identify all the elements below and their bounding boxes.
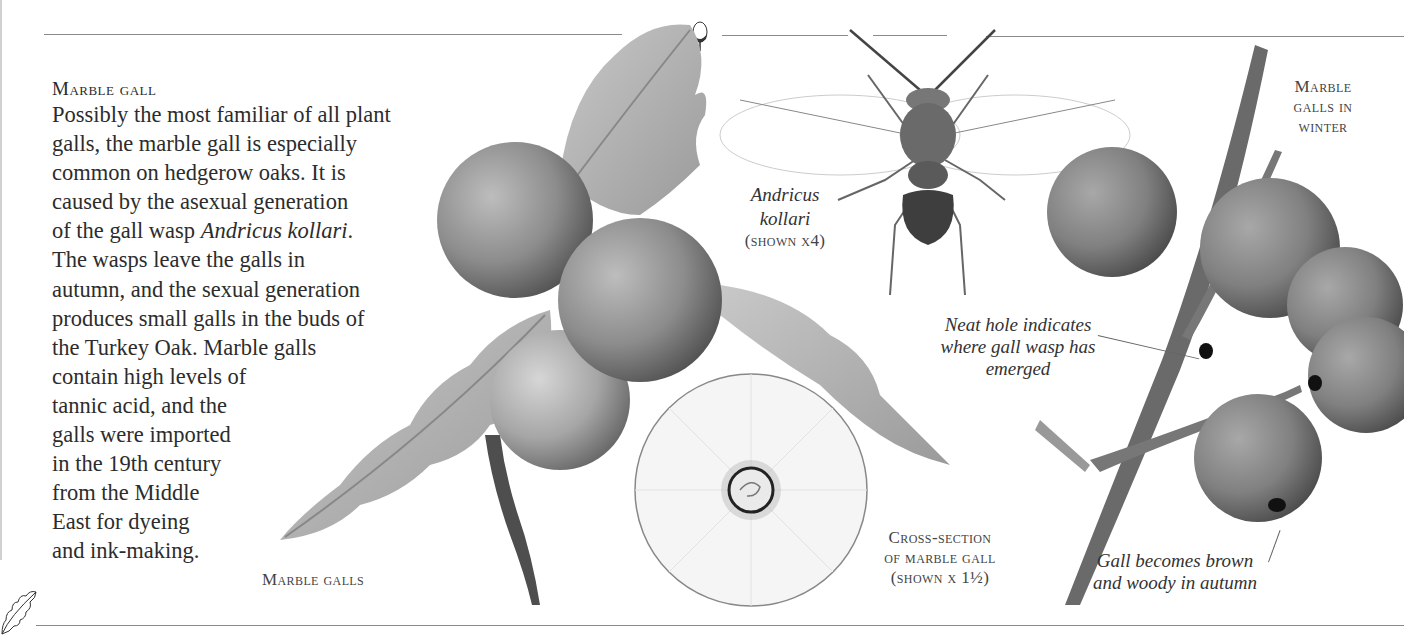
wasp-caption: Andricus kollari bbox=[720, 183, 850, 231]
woody-annotation: Gall becomes brown and woody in autumn bbox=[1070, 550, 1280, 594]
woody-annotation-line-1: Gall becomes brown bbox=[1070, 550, 1280, 572]
winter-caption-line-2: galls in bbox=[1268, 97, 1378, 117]
woody-annotation-line-2: and woody in autumn bbox=[1070, 572, 1280, 594]
cross-section-line-3: (shown x 1½) bbox=[855, 568, 1025, 588]
cross-section-illustration bbox=[632, 372, 872, 612]
wasp-name-species: kollari bbox=[720, 207, 850, 231]
hole-annotation-line-1: Neat hole indicates bbox=[928, 314, 1108, 336]
bottom-rule bbox=[36, 625, 1404, 626]
winter-galls-caption: Marble galls in winter bbox=[1268, 77, 1378, 137]
winter-caption-line-3: winter bbox=[1268, 117, 1378, 137]
cross-section-line-1: Cross-section bbox=[855, 528, 1025, 548]
book-page: Marble gall Possibly the most familiar o… bbox=[0, 0, 1404, 636]
article-heading: Marble gall bbox=[52, 78, 156, 100]
hole-annotation: Neat hole indicates where gall wasp has … bbox=[928, 314, 1108, 380]
wasp-name-genus: Andricus bbox=[720, 183, 850, 207]
oak-leaf-icon bbox=[0, 586, 40, 636]
cross-section-line-2: of marble gall bbox=[855, 548, 1025, 568]
hole-annotation-line-3: emerged bbox=[928, 358, 1108, 380]
body-line-text: of the gall wasp bbox=[52, 218, 201, 243]
winter-caption-line-1: Marble bbox=[1268, 77, 1378, 97]
cross-section-caption: Cross-section of marble gall (shown x 1½… bbox=[855, 528, 1025, 588]
wasp-scale-caption: (shown x4) bbox=[720, 231, 850, 251]
page-margin-edge bbox=[0, 0, 2, 560]
marble-galls-caption: Marble galls bbox=[262, 570, 432, 590]
hole-annotation-line-2: where gall wasp has bbox=[928, 336, 1108, 358]
